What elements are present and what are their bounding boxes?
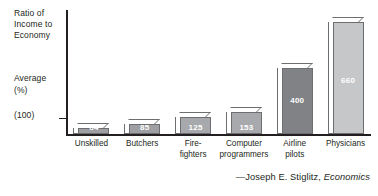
- bar-body: 64: [73, 123, 109, 134]
- bar-value-label: 64: [78, 123, 109, 132]
- income-ratio-bar-chart: Ratio of Income to Economy Average (%) (…: [0, 0, 378, 196]
- bar-3: 125: [175, 112, 211, 134]
- x-axis-line: [66, 134, 371, 136]
- bar-body: 153: [226, 107, 262, 134]
- bar-2: 85: [124, 119, 160, 134]
- category-axis-labels: UnskilledButchersFire- fightersComputer …: [66, 139, 371, 165]
- attribution-author: —Joseph E. Stiglitz,: [236, 172, 321, 182]
- bar-4: 153: [226, 107, 262, 134]
- y-axis-percent-label: (%): [14, 85, 28, 96]
- bar-body: 400: [277, 63, 313, 134]
- bar-value-label: 400: [282, 96, 313, 105]
- bar-6: 660: [328, 17, 364, 134]
- bar-value-label: 85: [129, 123, 160, 132]
- bar-value-label: 125: [180, 123, 211, 132]
- bar-body: 85: [124, 119, 160, 134]
- plot-area: 6485125153400660: [66, 10, 371, 134]
- category-label-6: Physicians: [316, 139, 375, 150]
- bar-body: 125: [175, 112, 211, 134]
- bar-value-label: 660: [333, 76, 364, 85]
- y-axis-title: Ratio of Income to Economy: [14, 8, 52, 41]
- attribution-work: Economics: [324, 172, 370, 182]
- bar-1: 64: [73, 123, 109, 134]
- bar-value-label: 153: [231, 123, 262, 132]
- attribution: —Joseph E. Stiglitz, Economics: [236, 172, 370, 182]
- y-axis-average-label: Average: [14, 73, 46, 84]
- bar-5: 400: [277, 63, 313, 134]
- bar-body: 660: [328, 17, 364, 134]
- y-axis-baseline-label: (100): [14, 110, 34, 121]
